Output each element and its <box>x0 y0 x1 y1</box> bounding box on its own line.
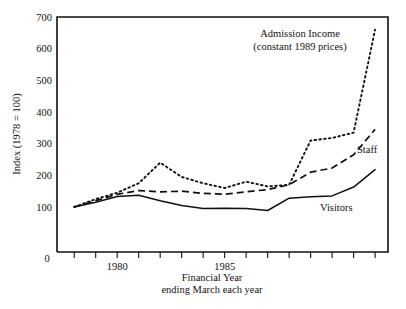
y-axis-tick-label: 200 <box>36 170 52 181</box>
y-axis-title: Index (1978 = 100) <box>11 93 23 175</box>
x-axis-title-line1: Financial Year <box>182 272 243 283</box>
chart-svg: 100200300400500600700 19801985 0 Index (… <box>0 0 406 309</box>
x-axis-tick-labels: 19801985 <box>107 261 235 272</box>
y-axis-tick-label: 700 <box>36 12 52 23</box>
plot-frame <box>57 17 388 252</box>
x-axis-tick-label: 1985 <box>214 261 235 272</box>
series-line-admission-income <box>74 30 375 207</box>
x-axis-origin-label: 0 <box>44 253 49 264</box>
annotation-staff: Staff <box>357 144 378 155</box>
y-axis-tick-label: 300 <box>36 138 52 149</box>
annotation-visitors: Visitors <box>320 202 353 213</box>
x-axis-title-line2: ending March each year <box>161 284 263 295</box>
y-axis-tick-label: 100 <box>36 202 52 213</box>
annotation-admission-income-line2: (constant 1989 prices) <box>253 41 347 53</box>
annotation-admission-income-line1: Admission Income <box>260 28 340 39</box>
y-axis-tick-label: 600 <box>36 43 52 54</box>
chart-container: 100200300400500600700 19801985 0 Index (… <box>0 0 406 309</box>
x-axis-ticks <box>74 252 375 258</box>
y-axis-tick-labels: 100200300400500600700 <box>36 12 52 213</box>
y-axis-tick-label: 400 <box>36 107 52 118</box>
y-axis-tick-label: 500 <box>36 75 52 86</box>
x-axis-tick-label: 1980 <box>107 261 128 272</box>
